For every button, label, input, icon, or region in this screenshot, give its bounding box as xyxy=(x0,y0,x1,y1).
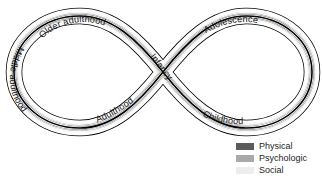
legend-label-social: Social xyxy=(259,165,284,176)
diagram-canvas: Older adulthood Middle adulthood Adultho… xyxy=(0,0,322,183)
legend-swatch-psychologic xyxy=(236,155,254,162)
legend-label-psychologic: Psychologic xyxy=(259,153,307,164)
legend-swatch-physical xyxy=(236,143,254,150)
legend-item-physical: Physical xyxy=(236,141,320,152)
legend-label-physical: Physical xyxy=(259,141,293,152)
legend-item-psychologic: Psychologic xyxy=(236,153,320,164)
legend: Physical Psychologic Social xyxy=(236,141,320,177)
legend-item-social: Social xyxy=(236,165,320,176)
legend-swatch-social xyxy=(236,167,254,174)
